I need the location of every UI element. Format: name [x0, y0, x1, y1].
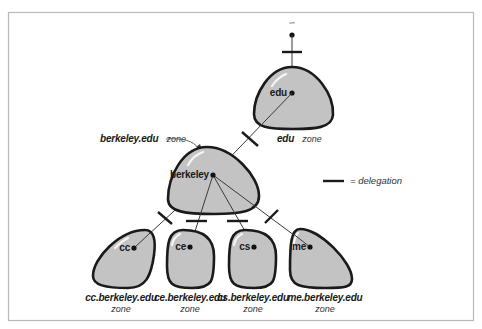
node-dot-cs [251, 244, 256, 249]
zone-name-cc: cc.berkeley.edu [85, 292, 157, 303]
node-label-edu: edu [270, 87, 287, 98]
legend: = delegation [323, 175, 402, 186]
node-dot-cc [131, 245, 136, 250]
node-dot-me [307, 244, 312, 249]
zone-name-ce: ce.berkeley.edu [154, 292, 226, 303]
root-node-label: “” [289, 20, 295, 29]
zone-ce: ce [167, 230, 214, 288]
node-label-ce: ce [175, 241, 186, 252]
zone-name-cs: cs.berkeley.edu [217, 292, 289, 303]
zone-me: me [290, 229, 352, 288]
zone-word-ce: zone [179, 304, 200, 314]
zone-cc: cc [93, 230, 155, 288]
legend-delegation-label: = delegation [350, 175, 402, 186]
delegation-marker-edu-berkeley [242, 132, 258, 146]
zone-word-cs: zone [242, 304, 263, 314]
zone-name-me: me.berkeley.edu [287, 292, 362, 303]
zone-name-berkeley: berkeley.edu [100, 133, 158, 144]
node-label-berkeley: berkeley [170, 169, 210, 180]
zone-shape-cc [93, 230, 155, 288]
zone-shape-berkeley [168, 147, 259, 214]
node-dot-berkeley [210, 172, 215, 177]
node-label-cc: cc [119, 242, 130, 253]
zone-word-me: zone [314, 304, 335, 314]
zone-cs: cs [229, 230, 276, 288]
delegation-marker-berkeley-me [265, 210, 278, 223]
node-label-cs: cs [239, 241, 250, 252]
zone-caption-berkeley: berkeley.edu zone [100, 127, 186, 146]
delegation-marker-berkeley-cc [158, 212, 172, 224]
node-dot-ce [187, 244, 192, 249]
zone-shape-me [290, 229, 352, 288]
zone-word-edu: zone [301, 134, 322, 144]
zone-word-cc: zone [110, 304, 131, 314]
zone-berkeley [168, 147, 259, 214]
zone-name-edu: edu [277, 133, 294, 144]
dns-zone-delegation-diagram: “” edu edu zone berkeley.edu zone berkel… [0, 0, 482, 329]
node-label-me: me [292, 241, 307, 252]
